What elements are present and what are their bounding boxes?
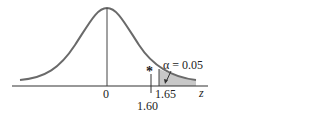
star-marker: * [146,66,153,78]
alpha-label: α = 0.05 [163,59,203,71]
test-stat-label: 1.60 [137,100,158,112]
tick-zero: 0 [103,88,109,100]
axis-label-z: z [199,87,204,99]
tick-critical: 1.65 [155,88,176,100]
